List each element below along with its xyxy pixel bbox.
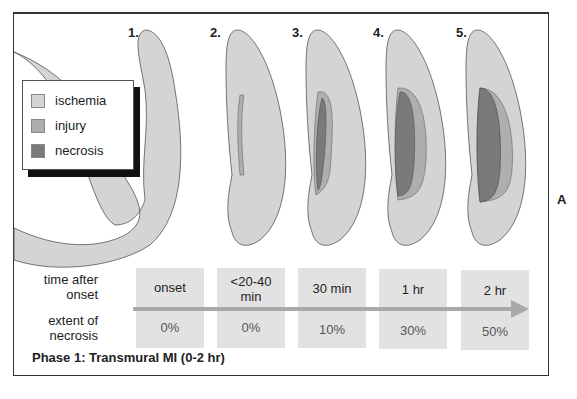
stage-4-heart-wall [386,30,446,245]
stage-2-time: <20-40min [217,274,285,304]
stage-2-heart-wall [226,30,286,245]
figure-caption: Phase 1: Transmural MI (0-2 hr) [32,350,225,365]
stage-3-number: 3. [292,25,303,40]
necrosis-swatch [31,144,45,158]
stage-5-heart-wall [466,30,526,245]
timeline-arrow-shaft [133,307,513,311]
stage-3-heart-wall [306,30,366,245]
stage-2-extent: 0% [217,320,285,335]
timeline-arrow-head [511,300,529,318]
stage-1-time: onset [136,280,204,295]
stage-5-time: 2 hr [461,283,529,298]
stage-3-extent: 10% [298,322,366,337]
legend-label: necrosis [55,143,103,158]
legend-item-ischemia: ischemia [31,93,106,108]
ischemia-swatch [31,94,45,108]
stage-1-extent: 0% [136,320,204,335]
stage-3-time: 30 min [298,281,366,296]
legend-label: injury [55,118,86,133]
injury-swatch [31,119,45,133]
stage-1-number: 1. [128,25,139,40]
stage-5-extent: 50% [461,324,529,339]
panel-letter: A [557,192,566,207]
stage-4-extent: 30% [379,323,447,338]
time-after-onset-label: time afteronset [3,272,98,302]
legend-item-injury: injury [31,118,86,133]
stage-2-number: 2. [210,25,221,40]
legend: ischemia injury necrosis [22,80,134,170]
stage-4-time: 1 hr [379,282,447,297]
stage-5-number: 5. [456,25,467,40]
extent-of-necrosis-label: extent ofnecrosis [3,313,98,343]
legend-label: ischemia [55,93,106,108]
stage-4-number: 4. [373,25,384,40]
legend-item-necrosis: necrosis [31,143,103,158]
